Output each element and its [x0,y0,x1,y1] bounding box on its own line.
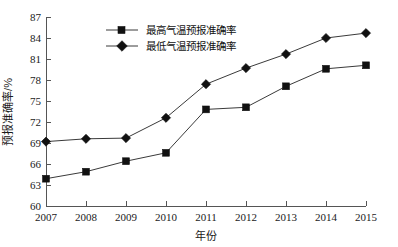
y-tick-label-5: 75 [30,95,42,107]
x-tick-label-2: 2009 [115,211,138,223]
x-axis-title: 年份 [195,229,217,242]
square-marker-icon [203,106,210,113]
y-tick-label-9: 87 [30,11,42,23]
x-tick-label-0: 2007 [35,211,58,223]
square-marker-icon [83,168,90,175]
y-tick-label-4: 72 [30,116,41,128]
y-axis-title: 预报准确率/% [1,78,14,146]
diamond-marker-icon [241,64,250,73]
y-axis-tick-labels: 60 63 66 69 72 75 78 81 84 87 [30,11,42,212]
chart-legend: 最高气温预报准确率 最低气温预报准确率 [106,24,236,52]
diamond-marker-icon [321,33,330,42]
line-chart-figure: 60 63 66 69 72 75 78 81 84 87 2007 2008 [0,0,398,247]
square-marker-icon [243,104,250,111]
square-marker-icon [363,62,370,69]
x-tick-label-3: 2010 [155,211,178,223]
x-tick-label-1: 2008 [75,211,98,223]
square-marker-icon [118,27,125,34]
legend-label-0: 最高气温预报准确率 [146,24,236,36]
x-axis-tick-labels: 2007 2008 2009 2010 2011 2012 2013 2014 … [35,211,378,223]
diamond-marker-icon [281,50,290,59]
x-tick-label-4: 2011 [195,211,217,223]
legend-label-1: 最低气温预报准确率 [146,40,236,52]
diamond-marker-icon [81,134,90,143]
x-tick-label-7: 2014 [315,211,338,223]
x-tick-label-5: 2012 [235,211,257,223]
diamond-marker-icon [41,137,50,146]
y-tick-label-7: 81 [30,53,41,65]
square-marker-icon [123,158,130,165]
y-tick-label-1: 63 [30,179,42,191]
y-tick-label-8: 84 [30,32,42,44]
x-axis-ticks [46,201,366,206]
y-tick-label-6: 78 [30,74,42,86]
square-marker-icon [163,149,170,156]
y-tick-label-2: 66 [30,158,42,170]
diamond-marker-icon [121,134,130,143]
chart-canvas: 60 63 66 69 72 75 78 81 84 87 2007 2008 [0,0,398,247]
square-marker-icon [283,83,290,90]
y-tick-label-3: 69 [30,137,42,149]
x-tick-label-6: 2013 [275,211,298,223]
square-marker-icon [43,175,50,182]
diamond-marker-icon [117,41,128,52]
x-tick-label-8: 2015 [355,211,378,223]
square-marker-icon [323,65,330,72]
diamond-marker-icon [361,29,370,38]
